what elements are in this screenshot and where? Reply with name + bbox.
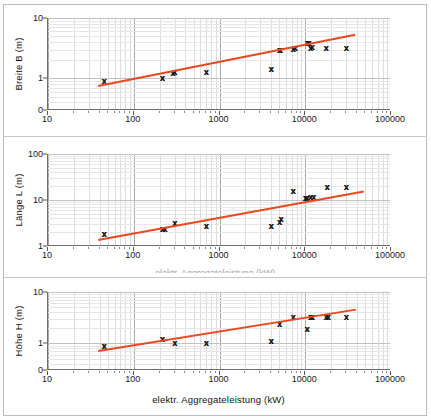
x-axis-tick-mark: [390, 247, 391, 251]
x-axis-tick-mark: [244, 111, 245, 113]
y-axis-tick-mark: [43, 343, 47, 344]
x-axis-tick-mark: [296, 371, 297, 373]
x-axis-tick-label: 100: [125, 374, 140, 384]
y-axis-tick-mark: [43, 18, 47, 19]
gridline-horizontal: [48, 204, 390, 205]
gridline-horizontal: [48, 31, 390, 32]
x-axis-tick-mark: [377, 371, 378, 373]
x-axis-tick-mark: [285, 111, 286, 113]
gridline-horizontal: [48, 210, 390, 211]
data-point-marker: x: [344, 43, 349, 52]
x-axis-tick-mark: [371, 371, 372, 373]
x-axis-tick-mark: [291, 371, 292, 373]
x-axis-tick-mark: [159, 371, 160, 373]
gridline-horizontal: [48, 78, 390, 79]
gridline-horizontal: [48, 214, 390, 215]
data-point-marker: x: [172, 339, 177, 348]
data-point-marker: x: [291, 187, 296, 196]
x-axis-tick-mark: [199, 111, 200, 113]
x-axis-tick-mark: [219, 247, 220, 251]
data-point-marker: x: [269, 222, 274, 231]
x-axis-tick-mark: [88, 247, 89, 249]
x-axis-tick-label: 1000: [208, 250, 228, 260]
y-axis-tick-label: 0: [21, 365, 43, 375]
data-point-marker: x: [204, 339, 209, 348]
y-axis-tick-mark: [43, 78, 47, 79]
gridline-horizontal: [48, 18, 390, 19]
gridline-horizontal: [48, 50, 390, 51]
x-axis-tick-label: 10: [42, 250, 52, 260]
x-axis-tick-mark: [133, 111, 134, 115]
x-axis-tick-mark: [364, 111, 365, 113]
x-axis-tick-mark: [244, 247, 245, 249]
x-axis-tick-mark: [114, 247, 115, 249]
chart-panel-hoehe: xxxxxxxxxxxxx101010100100010000100000Höh…: [0, 278, 431, 420]
plot-area: xxxxxxxxxxxxxxx: [47, 154, 390, 246]
y-axis-tick-label: 10: [21, 287, 43, 297]
x-axis-tick-mark: [270, 247, 271, 249]
x-axis-tick-mark: [174, 247, 175, 249]
y-axis-tick-label: 0: [21, 105, 43, 115]
x-axis-tick-mark: [382, 111, 383, 113]
x-axis-tick-mark: [304, 111, 305, 115]
gridline-horizontal: [48, 292, 390, 293]
gridline-horizontal: [48, 328, 390, 329]
x-axis-tick-mark: [88, 111, 89, 113]
y-axis-label: Länge L (m): [13, 173, 24, 226]
y-axis-tick-label: 1: [21, 73, 43, 83]
x-axis-tick-mark: [285, 247, 286, 249]
x-axis-tick-mark: [133, 371, 134, 375]
y-axis-label: Breite B (m): [13, 37, 24, 90]
x-axis-tick-mark: [129, 111, 130, 113]
y-axis-label: Höhe H (m): [13, 305, 24, 356]
x-axis-tick-mark: [278, 371, 279, 373]
x-axis-tick-mark: [259, 111, 260, 113]
data-point-marker: x: [269, 337, 274, 346]
x-axis-tick-mark: [205, 371, 206, 373]
x-axis-tick-mark: [356, 111, 357, 113]
x-axis-tick-mark: [184, 247, 185, 249]
gridline-horizontal: [48, 355, 390, 356]
x-axis-tick-mark: [210, 371, 211, 373]
x-axis-tick-mark: [356, 247, 357, 249]
gridline-horizontal: [48, 102, 390, 103]
x-axis-tick-mark: [199, 247, 200, 249]
x-axis-tick-mark: [73, 247, 74, 249]
clipped-axis-label: elektr. Aggregateleistung (kW): [155, 268, 275, 273]
x-axis-tick-mark: [193, 111, 194, 113]
y-axis-tick-label: 10: [21, 13, 43, 23]
x-axis-tick-mark: [382, 371, 383, 373]
x-axis-tick-label: 100000: [375, 114, 405, 124]
chart-panel-breite: xxxxxxxxxxxxxxxx101010100100010000100000…: [0, 0, 431, 136]
gridline-horizontal: [48, 81, 390, 82]
data-point-marker: x: [324, 43, 329, 52]
x-axis-tick-mark: [99, 247, 100, 249]
data-point-marker: x: [278, 214, 283, 223]
data-point-marker: x: [344, 182, 349, 191]
x-axis-tick-mark: [296, 247, 297, 249]
gridline-horizontal: [48, 27, 390, 28]
data-point-marker: x: [204, 67, 209, 76]
gridline-horizontal: [48, 200, 390, 201]
y-axis-tick-label: 1: [21, 241, 43, 251]
gridline-horizontal: [48, 154, 390, 155]
x-axis-tick-mark: [259, 371, 260, 373]
y-axis-tick-label: 1: [21, 338, 43, 348]
x-axis-tick-mark: [371, 247, 372, 249]
x-axis-tick-mark: [174, 371, 175, 373]
x-axis-tick-mark: [291, 247, 292, 249]
gridline-horizontal: [48, 300, 390, 301]
x-axis-tick-mark: [270, 371, 271, 373]
gridline-horizontal: [48, 294, 390, 295]
x-axis-tick-mark: [371, 111, 372, 113]
x-axis-tick-mark: [73, 371, 74, 373]
gridline-horizontal: [48, 364, 390, 365]
x-axis-tick-mark: [215, 247, 216, 249]
gridline-horizontal: [48, 42, 390, 43]
x-axis-tick-mark: [345, 247, 346, 249]
x-axis-tick-label: 1000: [208, 374, 228, 384]
x-axis-tick-mark: [184, 371, 185, 373]
x-axis-tick-label: 10: [42, 374, 52, 384]
x-axis-tick-mark: [219, 111, 220, 115]
x-axis-tick-mark: [99, 111, 100, 113]
